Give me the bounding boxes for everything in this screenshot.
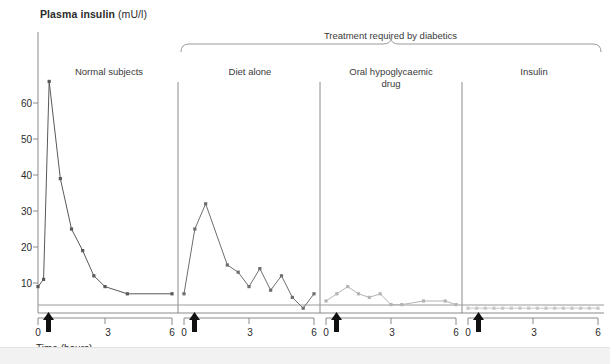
series-normal-subjects bbox=[36, 80, 173, 296]
ytick-label-10: 10 bbox=[10, 278, 32, 289]
ytick-label-30: 30 bbox=[10, 206, 32, 217]
ytick-label-20: 20 bbox=[10, 242, 32, 253]
series-line bbox=[38, 81, 172, 293]
data-point-marker bbox=[204, 202, 207, 205]
data-point-marker bbox=[544, 307, 547, 310]
ytick-label-50: 50 bbox=[10, 134, 32, 145]
data-point-marker bbox=[562, 307, 565, 310]
data-point-marker bbox=[324, 299, 327, 302]
series-oral-hypoglycaemic-drug bbox=[324, 285, 457, 306]
data-point-marker bbox=[302, 307, 305, 310]
data-point-marker bbox=[346, 285, 349, 288]
data-point-marker bbox=[596, 307, 599, 310]
x-scale-bars bbox=[38, 318, 598, 325]
xtick-label-p1-0: 0 bbox=[177, 327, 191, 338]
data-point-marker bbox=[553, 307, 556, 310]
series-line bbox=[184, 204, 314, 308]
data-point-marker bbox=[527, 307, 530, 310]
footer-strip bbox=[0, 347, 610, 364]
xtick-label-p2-3: 3 bbox=[385, 327, 399, 338]
data-point-marker bbox=[379, 292, 382, 295]
data-point-marker bbox=[389, 303, 392, 306]
data-point-marker bbox=[269, 289, 272, 292]
data-point-marker bbox=[570, 307, 573, 310]
panel-title-oral-drug-line2: drug bbox=[381, 78, 400, 89]
chart-plot-svg bbox=[0, 0, 610, 364]
data-point-marker bbox=[484, 307, 487, 310]
data-point-marker bbox=[536, 307, 539, 310]
data-point-marker bbox=[280, 274, 283, 277]
page-title: Plasma insulin (mU/l) bbox=[40, 8, 147, 20]
data-point-marker bbox=[226, 263, 229, 266]
title-bold-part: Plasma insulin bbox=[40, 8, 115, 20]
data-point-marker bbox=[368, 296, 371, 299]
data-point-marker bbox=[193, 227, 196, 230]
data-point-marker bbox=[103, 285, 106, 288]
panel-title-insulin: Insulin bbox=[464, 66, 604, 78]
data-point-marker bbox=[126, 292, 129, 295]
data-point-marker bbox=[579, 307, 582, 310]
data-point-marker bbox=[291, 296, 294, 299]
data-point-marker bbox=[170, 292, 173, 295]
data-point-marker bbox=[475, 307, 478, 310]
panel-title-normal-subjects: Normal subjects bbox=[40, 66, 178, 78]
panel-title-oral-drug: Oral hypoglycaemic drug bbox=[322, 66, 460, 89]
data-point-marker bbox=[454, 303, 457, 306]
series-insulin bbox=[466, 307, 599, 310]
panel-title-diet-alone: Diet alone bbox=[182, 66, 318, 78]
group-bracket-label: Treatment required by diabetics bbox=[178, 30, 603, 41]
data-point-marker bbox=[182, 292, 185, 295]
xtick-label-p1-3: 3 bbox=[243, 327, 257, 338]
data-point-marker bbox=[42, 278, 45, 281]
data-point-marker bbox=[81, 249, 84, 252]
panel-title-oral-drug-line1: Oral hypoglycaemic bbox=[349, 66, 432, 77]
series-line bbox=[326, 287, 456, 305]
data-point-marker bbox=[335, 292, 338, 295]
data-point-marker bbox=[59, 177, 62, 180]
title-unit-part: (mU/l) bbox=[118, 8, 147, 20]
data-point-marker bbox=[501, 307, 504, 310]
data-point-marker bbox=[36, 285, 39, 288]
data-point-marker bbox=[422, 299, 425, 302]
data-point-marker bbox=[258, 267, 261, 270]
data-point-marker bbox=[510, 307, 513, 310]
xtick-label-p3-6: 6 bbox=[591, 327, 605, 338]
xtick-label-p0-0: 0 bbox=[31, 327, 45, 338]
data-point-marker bbox=[492, 307, 495, 310]
data-point-marker bbox=[518, 307, 521, 310]
series-diet-alone bbox=[182, 202, 315, 310]
data-point-marker bbox=[444, 299, 447, 302]
xtick-label-p2-0: 0 bbox=[319, 327, 333, 338]
data-point-marker bbox=[70, 227, 73, 230]
xtick-label-p3-0: 0 bbox=[461, 327, 475, 338]
chart-canvas: Plasma insulin (mU/l) Treatment required… bbox=[0, 0, 610, 364]
data-point-marker bbox=[466, 307, 469, 310]
data-point-marker bbox=[400, 303, 403, 306]
data-point-marker bbox=[48, 80, 51, 83]
ytick-label-60: 60 bbox=[10, 98, 32, 109]
data-point-marker bbox=[92, 274, 95, 277]
data-point-marker bbox=[588, 307, 591, 310]
data-point-marker bbox=[312, 292, 315, 295]
data-point-marker bbox=[237, 271, 240, 274]
xtick-label-p0-3: 3 bbox=[101, 327, 115, 338]
data-point-marker bbox=[247, 285, 250, 288]
data-point-marker bbox=[357, 292, 360, 295]
xtick-label-p3-3: 3 bbox=[527, 327, 541, 338]
ytick-label-40: 40 bbox=[10, 170, 32, 181]
